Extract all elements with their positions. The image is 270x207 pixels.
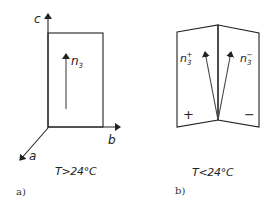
- domain-plus-sign: +: [183, 108, 194, 121]
- caption-b: b): [175, 186, 185, 196]
- n3-minus-vector: [218, 52, 231, 120]
- a-axis-label: a: [29, 150, 36, 162]
- domain-minus-sign: −: [244, 108, 255, 121]
- temperature-label-a: T>24°C: [55, 166, 96, 177]
- caption-a: a): [16, 187, 26, 197]
- panel-a: [20, 14, 120, 160]
- n3-label: n3: [71, 55, 83, 70]
- temperature-label-b: T<24°C: [192, 167, 233, 178]
- n3-minus-label: n3−: [240, 52, 252, 67]
- n3-plus-vector: [205, 52, 218, 120]
- c-axis-label: c: [34, 13, 41, 25]
- crystal-face: [48, 33, 103, 127]
- b-axis-label: b: [108, 134, 116, 146]
- n3-plus-label: n3+: [180, 52, 192, 67]
